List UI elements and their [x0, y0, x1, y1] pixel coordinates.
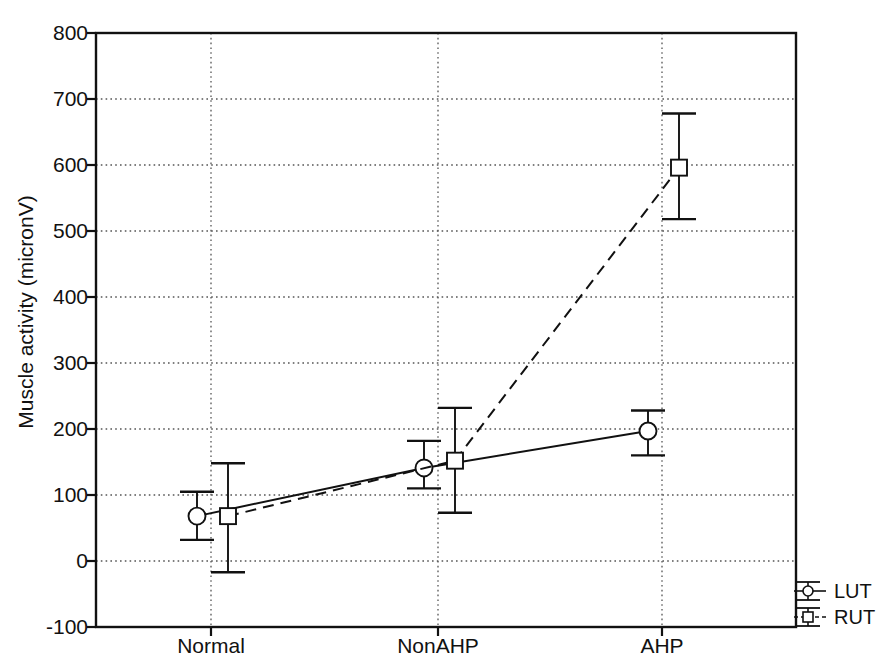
axis-ticks [87, 33, 662, 636]
circle-errorbar-icon [790, 578, 830, 604]
marker-circle-lut [640, 422, 657, 439]
legend-item-lut: LUT [790, 578, 875, 604]
square-errorbar-icon [790, 604, 830, 630]
marker-square-rut [671, 160, 687, 176]
chart-legend: LUT RUT [790, 578, 875, 630]
gridlines [96, 33, 796, 627]
legend-label-rut: RUT [834, 607, 875, 627]
plot-area [0, 0, 881, 658]
legend-item-rut: RUT [790, 604, 875, 630]
legend-label-lut: LUT [834, 581, 872, 601]
marker-square-rut [447, 453, 463, 469]
marker-square-rut [220, 508, 236, 524]
marker-circle-lut [189, 508, 206, 525]
axis-frame [96, 33, 796, 627]
chart-figure: Muscle activity (micronV) 800 700 600 50… [0, 0, 881, 658]
